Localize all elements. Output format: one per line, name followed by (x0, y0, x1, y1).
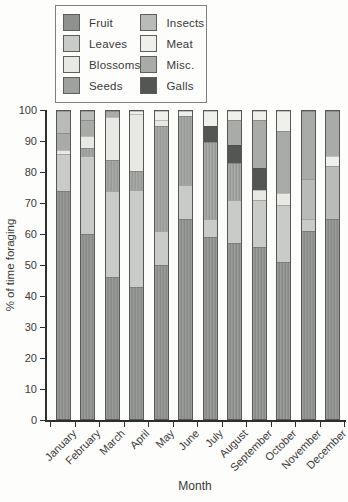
bar-segment-february-blossoms (81, 136, 94, 148)
bar-segment-may-fruit (155, 265, 168, 419)
bar-may (154, 110, 169, 420)
bar-segment-december-meat (326, 156, 339, 167)
legend-label-galls: Galls (166, 80, 193, 92)
x-tick-2 (99, 422, 100, 427)
y-tick-20 (40, 358, 46, 359)
x-axis-line (45, 420, 346, 422)
bar-segment-july-galls (204, 126, 217, 141)
x-tick-12 (344, 422, 345, 427)
legend-item-insects: Insects (140, 12, 204, 33)
x-tick-10 (295, 422, 296, 427)
bar-february (80, 110, 95, 420)
x-tick-3 (124, 422, 125, 427)
bar-november (301, 110, 316, 420)
legend-label-meat: Meat (166, 38, 192, 50)
bar-segment-may-seeds (155, 126, 168, 231)
y-tick-label-0: 0 (5, 414, 37, 426)
y-tick-label-90: 90 (5, 135, 37, 147)
y-axis-line (45, 110, 47, 422)
x-tick-label-april: April (128, 427, 152, 451)
bar-segment-september-fruit (253, 247, 266, 419)
bar-december (325, 110, 340, 420)
legend-label-seeds: Seeds (89, 80, 123, 92)
x-tick-11 (320, 422, 321, 427)
bar-segment-december-insects (326, 166, 339, 218)
x-tick-label-june: June (176, 427, 201, 452)
bar-segment-january-misc (57, 133, 70, 150)
x-tick-4 (148, 422, 149, 427)
bar-segment-september-misc (253, 120, 266, 168)
legend-item-seeds: Seeds (63, 75, 140, 96)
y-tick-10 (40, 389, 46, 390)
bar-segment-may-leaves (155, 231, 168, 265)
bar-segment-march-leaves (106, 191, 119, 277)
insects-swatch-icon (140, 14, 157, 31)
seeds-swatch-icon (63, 77, 80, 94)
bar-segment-april-seeds (130, 171, 143, 189)
legend-label-blossoms: Blossoms (89, 59, 140, 71)
bar-segment-april-leaves (130, 190, 143, 287)
bar-segment-november-insects (302, 179, 315, 219)
y-tick-40 (40, 296, 46, 297)
y-tick-100 (40, 110, 46, 111)
bar-august (227, 110, 242, 420)
bar-january (56, 110, 71, 420)
bar-segment-august-meat (228, 111, 241, 120)
bar-segment-november-fruit (302, 231, 315, 419)
y-tick-0 (40, 420, 46, 421)
x-tick-8 (246, 422, 247, 427)
legend-item-fruit: Fruit (63, 12, 140, 33)
blossoms-swatch-icon (63, 56, 80, 73)
bar-segment-march-seeds (106, 160, 119, 191)
legend-label-insects: Insects (166, 17, 204, 29)
bar-segment-july-leaves (204, 219, 217, 237)
x-tick-label-may: May (153, 427, 176, 450)
bar-segment-october-misc (277, 131, 290, 193)
y-tick-50 (40, 265, 46, 266)
leaves-swatch-icon (63, 35, 80, 52)
bar-segment-january-insects (57, 111, 70, 133)
legend-item-leaves: Leaves (63, 33, 140, 54)
fruit-swatch-icon (63, 14, 80, 31)
bar-segment-february-fruit (81, 234, 94, 419)
bar-segment-march-blossoms (106, 117, 119, 160)
x-tick-1 (75, 422, 76, 427)
x-tick-9 (271, 422, 272, 427)
bar-segment-december-fruit (326, 219, 339, 419)
y-tick-80 (40, 172, 46, 173)
bar-segment-august-leaves (228, 200, 241, 243)
bar-segment-september-galls (253, 168, 266, 190)
bar-october (276, 110, 291, 420)
x-axis-title: Month (46, 479, 344, 493)
foraging-time-chart: FruitLeavesBlossomsSeedsInsectsMeatMisc.… (0, 0, 348, 502)
bar-segment-february-leaves (81, 156, 94, 235)
misc-swatch-icon (140, 56, 157, 73)
bar-segment-september-meat (253, 111, 266, 120)
y-tick-label-20: 20 (5, 352, 37, 364)
y-tick-70 (40, 203, 46, 204)
bar-segment-may-meat (155, 111, 168, 120)
bar-segment-august-misc (228, 120, 241, 145)
bar-segment-february-insects (81, 111, 94, 120)
bar-segment-june-fruit (179, 219, 192, 419)
x-tick-5 (173, 422, 174, 427)
bar-segment-august-seeds (228, 163, 241, 200)
y-tick-label-80: 80 (5, 166, 37, 178)
bar-segment-april-blossoms (130, 114, 143, 171)
bar-segment-june-seeds (179, 116, 192, 185)
x-tick-6 (197, 422, 198, 427)
y-axis-title: % of time foraging (3, 205, 17, 325)
legend-label-misc: Misc. (166, 59, 194, 71)
bar-segment-november-leaves (302, 219, 315, 231)
legend-label-leaves: Leaves (89, 38, 127, 50)
bar-segment-august-fruit (228, 243, 241, 419)
bar-segment-october-meat (277, 111, 290, 131)
bar-segment-january-fruit (57, 191, 70, 419)
bar-september (252, 110, 267, 420)
bar-segment-april-fruit (130, 287, 143, 419)
galls-swatch-icon (140, 77, 157, 94)
y-tick-60 (40, 234, 46, 235)
y-tick-30 (40, 327, 46, 328)
bar-segment-july-meat (204, 111, 217, 126)
bar-segment-august-galls (228, 145, 241, 163)
